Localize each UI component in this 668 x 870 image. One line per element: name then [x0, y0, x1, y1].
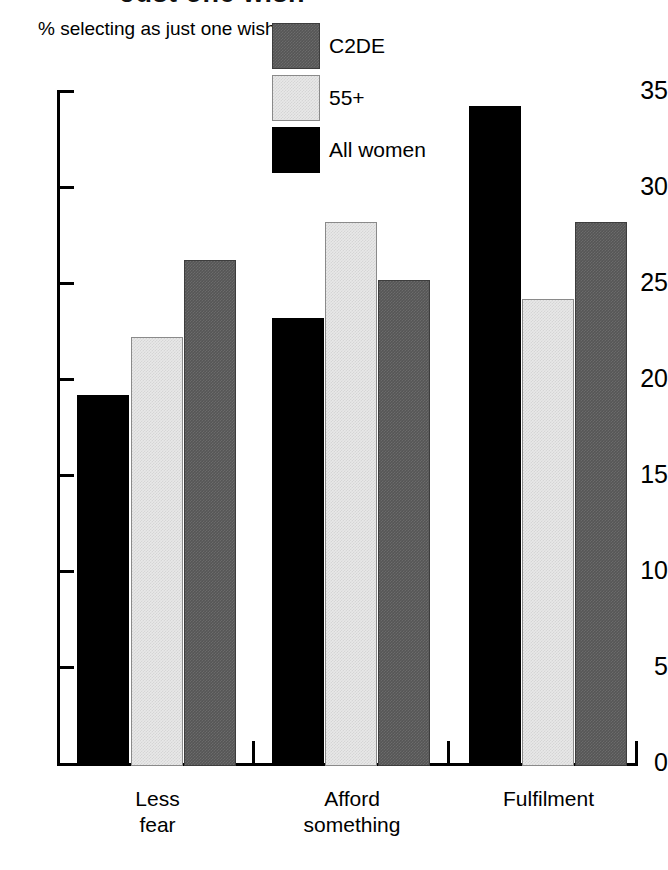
- y-tick-25: [60, 282, 74, 285]
- bar-afford-something-all-women: [272, 318, 324, 766]
- y-tick-10: [60, 570, 74, 573]
- y-tick-label-10: 10: [620, 558, 668, 583]
- bar-less-fear-55plus: [131, 337, 183, 766]
- x-axis-label-fulfilment: Fulfilment: [466, 786, 631, 812]
- y-tick-label-15: 15: [620, 462, 668, 487]
- bar-less-fear-all-women: [77, 395, 129, 766]
- bar-less-fear-c2de: [184, 260, 236, 766]
- y-tick-label-25: 25: [620, 270, 668, 295]
- x-axis-label-afford-something: Afford something: [272, 786, 432, 838]
- y-tick-label-20: 20: [620, 366, 668, 391]
- x-tick-3: [635, 741, 638, 763]
- plot-area: 35 30 25 20 15 10 5 0 Less fear Afford s…: [0, 0, 668, 870]
- y-tick-20: [60, 378, 74, 381]
- y-tick-35: [60, 90, 74, 93]
- bar-chart: Just one wish % selecting as just one wi…: [0, 0, 668, 870]
- x-tick-1: [252, 741, 255, 763]
- y-tick-label-30: 30: [620, 174, 668, 199]
- bar-afford-something-c2de: [378, 280, 430, 766]
- y-tick-label-35: 35: [620, 78, 668, 103]
- x-tick-2: [447, 741, 450, 763]
- y-tick-5: [60, 666, 74, 669]
- y-tick-label-5: 5: [620, 654, 668, 679]
- y-tick-15: [60, 474, 74, 477]
- bar-fulfilment-all-women: [469, 106, 521, 766]
- x-axis-label-less-fear: Less fear: [80, 786, 235, 838]
- bar-fulfilment-c2de: [575, 222, 627, 766]
- bar-fulfilment-55plus: [522, 299, 574, 766]
- y-axis-line: [57, 90, 60, 766]
- bar-afford-something-55plus: [325, 222, 377, 766]
- y-tick-30: [60, 186, 74, 189]
- y-tick-label-0: 0: [620, 750, 668, 775]
